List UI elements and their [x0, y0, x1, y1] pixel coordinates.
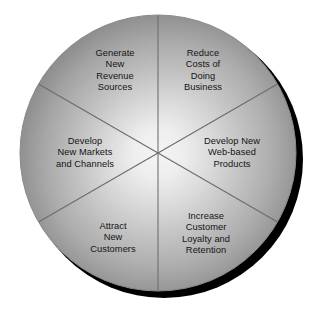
strategy-wheel-figure: Generate New Revenue Sources Reduce Cost… — [0, 0, 322, 317]
wheel-graphic — [0, 0, 322, 317]
